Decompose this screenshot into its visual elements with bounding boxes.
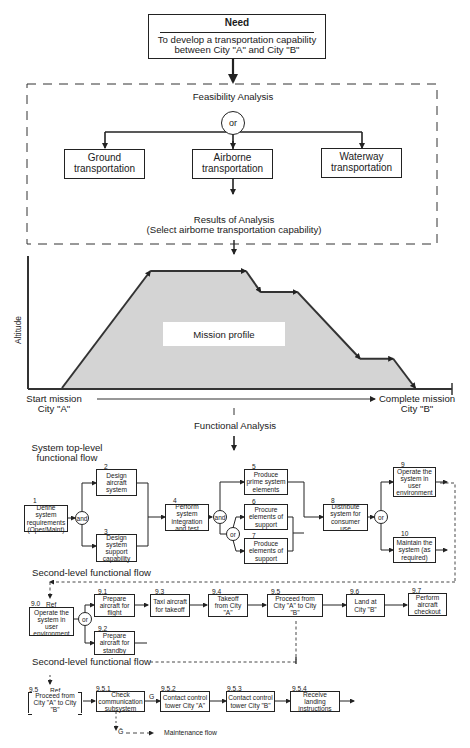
altitude-axis-label: Altitude (13, 306, 23, 354)
mission-profile-label-box: Mission profile (163, 322, 285, 346)
block-9-5-3-contact-b: Contact control tower City "B" (226, 691, 275, 712)
complete-mission-line2: City "B" (377, 403, 457, 414)
gate-or-2: or (374, 510, 388, 524)
functional-analysis-title: Functional Analysis (180, 420, 290, 431)
block-9-1-prepare-flight: Prepare aircraft for flight (94, 594, 135, 617)
need-text-line2: between City "A" and City "B" (174, 45, 299, 55)
feasibility-title: Feasibility Analysis (173, 91, 293, 102)
ref-dashed-9 (440, 483, 455, 582)
block-9-5-4-receive-landing: Receive landing instructions (290, 691, 340, 712)
block-4-integration-test: Perform system integration and test (165, 504, 209, 531)
gate-or-9: or (78, 612, 92, 626)
block-6-procure-support: Procure elements of support (244, 504, 288, 530)
need-divider (160, 32, 314, 33)
ref-9-0-operate: Operate the system in user environment (29, 607, 74, 636)
mission-profile-label: Mission profile (193, 329, 254, 340)
block-9-7-checkout: Perform aircraft checkout (408, 593, 447, 616)
second-level-b-title: Second-level functional flow (32, 656, 147, 667)
go-label: G (149, 693, 154, 700)
block-2-design-aircraft: Design aircraft system (96, 469, 137, 496)
block-9-5-2-contact-a: Contact control tower City "A" (160, 691, 210, 712)
block-5-produce-prime: Produce prime system elements (244, 469, 288, 495)
ref-9-5-proceed: Proceed from City "A" to City "B" (28, 692, 82, 713)
block-9-6-land: Land at City "B" (346, 594, 385, 617)
gate-and-2: and (213, 510, 227, 524)
option-airborne: Airborne transportation (192, 149, 273, 179)
nogo-label: Ḡ (118, 728, 123, 735)
second-level-a-title: Second-level functional flow (32, 567, 147, 578)
block-3-design-support: Design system support capability (96, 534, 137, 562)
block-9-2-prepare-standby: Prepare aircraft for standby (94, 631, 135, 655)
need-title: Need (225, 15, 249, 29)
feasibility-or-gate: or (221, 111, 245, 135)
gate-and-1: and (75, 511, 89, 525)
block-9-4-takeoff: Takeoff from City "A" (208, 594, 248, 617)
option-waterway: Waterway transportation (321, 148, 402, 178)
block-1-define-requirements: Define system requirements (Oper/Maint) (24, 505, 68, 532)
block-10-maintain: Maintain the system (as required) (393, 537, 436, 563)
results-line2: (Select airborne transportation capabili… (134, 224, 334, 235)
block-9-operate: Operate the system in user environment (393, 467, 436, 497)
need-box: Need To develop a transportation capabil… (148, 14, 326, 59)
block-8-distribute: Distribute system for consumer use (323, 504, 368, 531)
start-mission-line2: City "A" (24, 403, 84, 414)
option-ground: Ground transportation (64, 149, 145, 179)
maintenance-flow-label: Maintenance flow (164, 729, 217, 736)
block-7-produce-support: Produce elements of support (244, 538, 288, 564)
block-9-3-taxi: Taxi aircraft for takeoff (150, 594, 190, 617)
top-level-title-line2: functional flow (28, 452, 106, 463)
block-9-5-1-check-comm: Check communication subsystem (96, 691, 145, 712)
gate-or-1: or (226, 527, 240, 541)
block-9-5-proceed: Proceed from City "A" to City "B" (267, 594, 323, 617)
